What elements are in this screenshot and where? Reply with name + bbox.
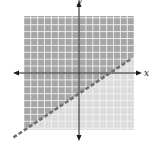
y-axis-arrow-down-icon — [77, 135, 82, 141]
x-axis-label: x — [144, 68, 149, 78]
x-axis-arrow-right-icon — [136, 71, 142, 76]
x-axis-arrow-left-icon — [13, 71, 19, 76]
y-axis-label: y — [76, 0, 83, 5]
inequality-graph: x y — [0, 0, 152, 146]
